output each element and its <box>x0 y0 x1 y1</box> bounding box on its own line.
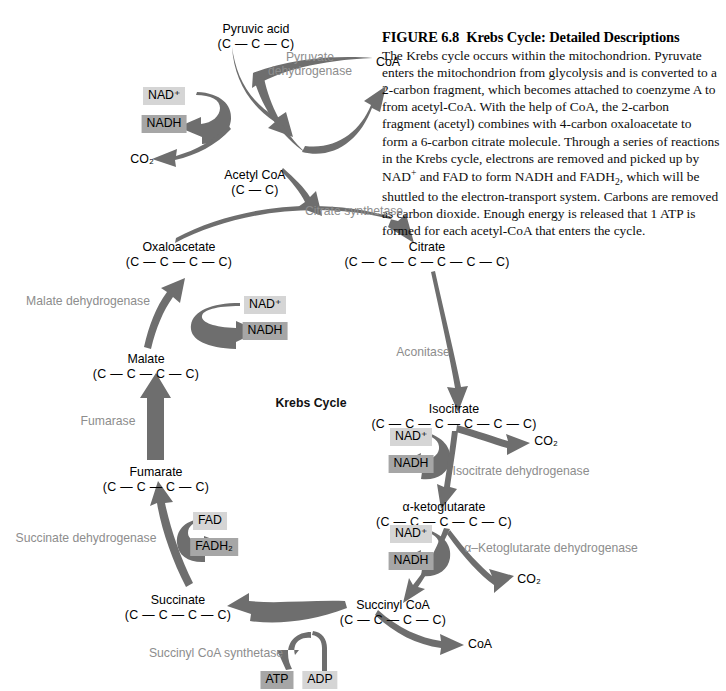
chip-nadh-pyruvate: NADH <box>142 115 187 133</box>
arrow-fumarate-to-malate <box>140 373 171 460</box>
enzyme-citrate-synthetase: Citrate synthetase <box>305 204 403 218</box>
label-citrate: Citrate (C — C — C — C — C — C) <box>344 240 509 269</box>
figure-number: FIGURE 6.8 <box>382 29 459 45</box>
chip-nad-plus-ketoglutarate: NAD⁺ <box>390 525 432 543</box>
label-succinate-name: Succinate <box>125 593 231 608</box>
label-coa-bottom: CoA <box>468 637 492 651</box>
chip-nad-plus-pyruvate: NAD⁺ <box>143 87 185 105</box>
arrow-adp-stem <box>312 631 327 671</box>
enzyme-alpha-ketoglutarate-dehydrogenase: α–Ketoglutarate dehydrogenase <box>464 541 638 555</box>
enzyme-aconitase: Aconitase <box>396 345 450 359</box>
chip-fadh2: FADH₂ <box>190 538 238 556</box>
enzyme-fumarase: Fumarase <box>81 414 136 428</box>
enzyme-succinyl-coa-synthetase: Succinyl CoA synthetase <box>149 646 283 660</box>
label-malate: Malate (C — C — C — C) <box>93 352 199 381</box>
label-citrate-formula: (C — C — C — C — C — C) <box>344 255 509 270</box>
chip-nadh-isocitrate: NADH <box>389 455 434 473</box>
label-pyruvic-acid-name: Pyruvic acid <box>218 22 295 37</box>
figure-caption-body: The Krebs cycle occurs within the mitoch… <box>382 47 720 239</box>
label-oxaloacetate-name: Oxaloacetate <box>126 240 232 255</box>
krebs-cycle-center-title: Krebs Cycle <box>275 396 346 410</box>
label-succinyl-coa: Succinyl CoA (C — C — C — C) <box>340 598 446 627</box>
label-malate-name: Malate <box>93 352 199 367</box>
chip-nadh-malate: NADH <box>243 322 288 340</box>
chip-nad-plus-malate: NAD⁺ <box>244 296 286 314</box>
label-isocitrate: Isocitrate (C — C — C — C — C — C) <box>371 402 536 431</box>
figure-page: FIGURE 6.8 Krebs Cycle: Detailed Descrip… <box>0 0 726 691</box>
arrow-coa-release-top <box>253 76 306 153</box>
arrow-succinylcoa-to-succinate <box>227 593 347 622</box>
label-succinyl-coa-name: Succinyl CoA <box>340 598 446 613</box>
enzyme-succinate-dehydrogenase: Succinate dehydrogenase <box>16 531 157 545</box>
label-fumarate-name: Fumarate <box>103 465 209 480</box>
figure-caption: FIGURE 6.8 Krebs Cycle: Detailed Descrip… <box>382 28 720 239</box>
label-acetyl-coa: Acetyl CoA (C — C) <box>224 168 285 197</box>
label-malate-formula: (C — C — C — C) <box>93 367 199 382</box>
label-fumarate: Fumarate (C — C — C — C) <box>103 465 209 494</box>
chip-atp: ATP <box>260 671 293 689</box>
label-succinyl-coa-formula: (C — C — C — C) <box>340 613 446 628</box>
arrow-co2-ketoglutarate <box>447 530 514 593</box>
label-pyruvic-acid: Pyruvic acid (C — C — C) <box>218 22 295 51</box>
label-acetyl-coa-name: Acetyl CoA <box>224 168 285 183</box>
label-co2-top: CO₂ <box>130 152 153 166</box>
label-oxaloacetate-formula: (C — C — C — C) <box>126 255 232 270</box>
chip-nad-plus-isocitrate: NAD⁺ <box>390 428 432 446</box>
enzyme-pyruvate-dehydrogenase-line1: Pyruvate <box>286 50 334 64</box>
enzyme-malate-dehydrogenase: Malate dehydrogenase <box>26 294 150 308</box>
enzyme-isocitrate-dehydrogenase: Isocitrate dehydrogenase <box>453 464 590 478</box>
arrow-to-coa-top <box>302 86 386 154</box>
arrow-citrate-to-isocitrate <box>431 271 468 412</box>
figure-title: Krebs Cycle: Detailed Descriptions <box>466 29 679 45</box>
label-fumarate-formula: (C — C — C — C) <box>103 480 209 495</box>
label-oxaloacetate: Oxaloacetate (C — C — C — C) <box>126 240 232 269</box>
label-alpha-ketoglutarate-name: α-ketoglutarate <box>376 500 512 515</box>
arrow-malate-to-oxaloacetate <box>144 278 185 349</box>
label-co2-isocitrate: CO₂ <box>534 434 557 448</box>
label-coa-top: CoA <box>376 55 400 69</box>
enzyme-pyruvate-dehydrogenase: Pyruvate dehydrogenase <box>268 50 352 78</box>
chip-adp: ADP <box>302 671 337 689</box>
label-acetyl-coa-formula: (C — C) <box>224 183 285 198</box>
label-succinate-formula: (C — C — C — C) <box>125 608 231 623</box>
figure-caption-title: FIGURE 6.8 Krebs Cycle: Detailed Descrip… <box>382 28 720 46</box>
label-citrate-name: Citrate <box>344 240 509 255</box>
chip-fad: FAD <box>193 512 227 530</box>
label-succinate: Succinate (C — C — C — C) <box>125 593 231 622</box>
chip-nadh-ketoglutarate: NADH <box>389 552 434 570</box>
label-co2-ketoglutarate: CO₂ <box>517 572 540 586</box>
label-pyruvic-acid-formula: (C — C — C) <box>218 37 295 52</box>
enzyme-pyruvate-dehydrogenase-line2: dehydrogenase <box>268 64 352 78</box>
label-isocitrate-name: Isocitrate <box>371 402 536 417</box>
